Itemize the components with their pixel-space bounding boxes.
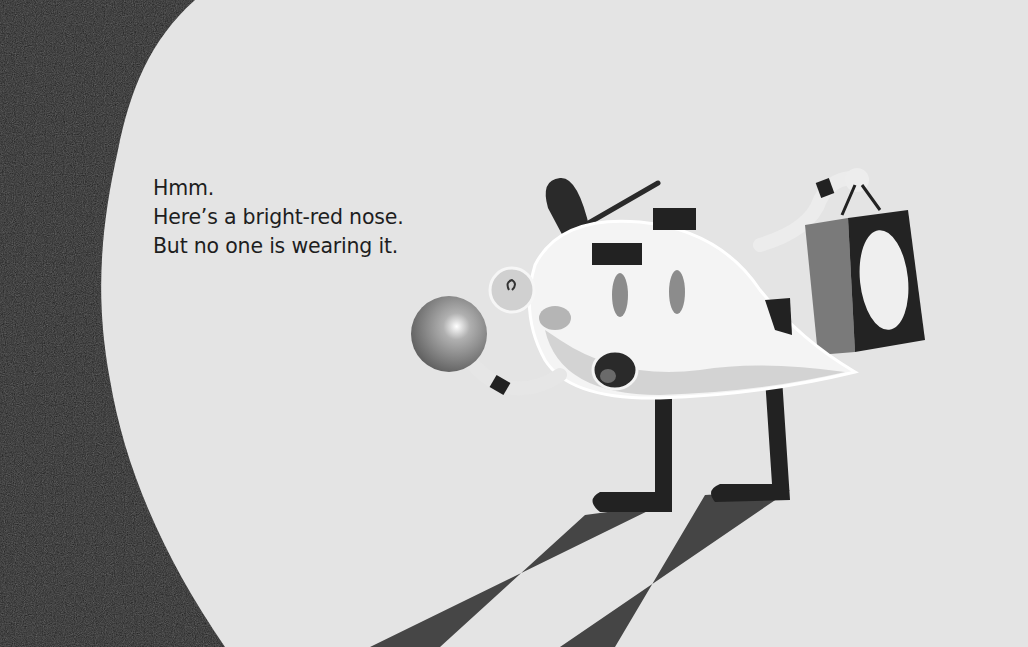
- leg-shadows: [370, 490, 790, 647]
- ear: [490, 268, 534, 312]
- right-eye: [669, 270, 685, 314]
- left-eye: [612, 273, 628, 317]
- red-nose: [411, 296, 487, 372]
- head-band-top: [653, 208, 696, 230]
- cheek: [539, 306, 571, 330]
- character-illustration: [0, 0, 1028, 647]
- picture-book-page: Hmm. Here’s a bright-red nose. But no on…: [0, 0, 1028, 647]
- open-mouth: [593, 351, 637, 389]
- head-band-left: [592, 243, 642, 265]
